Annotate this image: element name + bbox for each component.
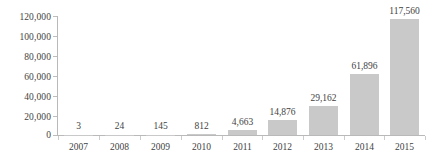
bar-group: 117,560 <box>384 16 425 135</box>
bar-value-label: 29,162 <box>297 93 350 104</box>
y-axis-tick-label: 80,000 <box>0 52 57 62</box>
x-axis-line <box>57 135 425 136</box>
x-axis-tick-mark <box>140 136 141 140</box>
bar-chart: 120,000 100,000 80,000 60,000 40,000 20,… <box>0 0 430 165</box>
x-axis-tick-mark <box>384 136 385 140</box>
x-axis-category-label: 2015 <box>378 142 430 153</box>
x-axis-tick-mark <box>303 136 304 140</box>
bar-group: 24 <box>99 16 140 135</box>
bar-2013[interactable] <box>309 106 338 135</box>
x-axis-tick-mark <box>181 136 182 140</box>
y-axis-tick-label: 40,000 <box>0 92 57 102</box>
y-axis-tick-label: 0 <box>0 130 57 140</box>
bar-2007[interactable] <box>64 135 93 136</box>
x-axis-tick-mark <box>425 136 426 140</box>
bar-value-label: 14,876 <box>256 107 309 118</box>
y-axis-tick-label: 60,000 <box>0 72 57 82</box>
bar-group: 61,896 <box>344 16 385 135</box>
bar-2010[interactable] <box>187 134 216 135</box>
x-axis-tick-mark <box>58 136 59 140</box>
x-axis-tick-mark <box>262 136 263 140</box>
bar-2011[interactable] <box>228 130 257 135</box>
bar-2014[interactable] <box>350 74 379 135</box>
bar-group: 29,162 <box>303 16 344 135</box>
bar-2009[interactable] <box>146 135 175 136</box>
bar-group: 3 <box>58 16 99 135</box>
x-axis-tick-mark <box>99 136 100 140</box>
bar-2015[interactable] <box>390 19 419 135</box>
y-axis-tick-label: 120,000 <box>0 12 57 22</box>
x-axis-tick-mark <box>222 136 223 140</box>
x-axis-tick-mark <box>344 136 345 140</box>
bar-value-label: 117,560 <box>378 6 430 17</box>
y-axis-tick-label: 20,000 <box>0 112 57 122</box>
bar-group: 14,876 <box>262 16 303 135</box>
bar-group: 145 <box>140 16 181 135</box>
bar-2012[interactable] <box>268 120 297 135</box>
plot-area: 3 24 145 812 4,663 14,876 29,162 <box>58 16 425 135</box>
y-axis-tick-label: 100,000 <box>0 32 57 42</box>
bar-2008[interactable] <box>105 135 134 136</box>
